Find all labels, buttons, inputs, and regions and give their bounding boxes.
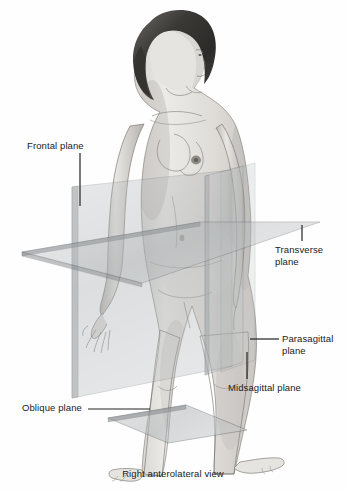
- parasagittal-plane: [205, 166, 243, 375]
- label-frontal-plane: Frontal plane: [27, 140, 84, 152]
- label-midsagittal-plane: Midsagittal plane: [228, 382, 301, 394]
- figure-caption: Right anterolateral view: [0, 468, 346, 479]
- label-oblique-plane: Oblique plane: [22, 402, 82, 414]
- figure-head: [133, 10, 216, 100]
- label-parasagittal-plane: Parasagittal plane: [282, 333, 333, 356]
- label-transverse-plane: Transverse plane: [275, 244, 323, 267]
- anatomical-planes-figure: Frontal plane Transverse plane Parasagit…: [0, 0, 346, 490]
